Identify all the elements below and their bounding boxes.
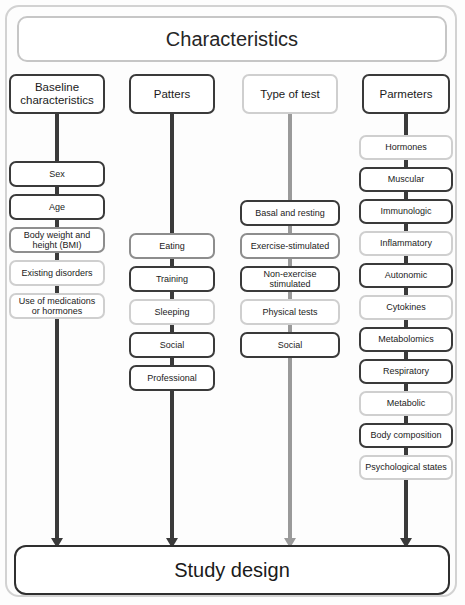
node-type-of-test-4: Social bbox=[240, 332, 340, 358]
column-header-type-of-test: Type of test bbox=[242, 74, 338, 114]
node-baseline-1: Age bbox=[9, 194, 105, 220]
node-parameters-0-label: Hormones bbox=[382, 142, 430, 152]
column-header-baseline: Baseline characteristics bbox=[9, 74, 105, 114]
node-patterns-2: Sleeping bbox=[129, 299, 215, 325]
node-parameters-4: Autonomic bbox=[359, 263, 453, 288]
node-parameters-2-label: Immunologic bbox=[377, 206, 434, 216]
node-parameters-6-label: Metabolomics bbox=[375, 334, 437, 344]
node-patterns-0-label: Eating bbox=[156, 241, 188, 251]
node-parameters-4-label: Autonomic bbox=[382, 270, 431, 280]
column-header-patterns: Patters bbox=[129, 74, 215, 114]
connector-line bbox=[170, 114, 174, 538]
node-baseline-4: Use of medications or hormones bbox=[9, 293, 105, 319]
node-patterns-1-label: Training bbox=[153, 274, 191, 284]
node-baseline-2-label: Body weight and height (BMI) bbox=[11, 230, 103, 250]
study-design-box: Study design bbox=[14, 545, 450, 595]
node-patterns-3: Social bbox=[129, 332, 215, 358]
study-design-label: Study design bbox=[174, 559, 290, 582]
node-parameters-7-label: Respiratory bbox=[380, 366, 432, 376]
connector-line bbox=[288, 114, 292, 538]
node-parameters-1-label: Muscular bbox=[385, 174, 428, 184]
diagram-title-box: Characteristics bbox=[17, 16, 447, 62]
node-baseline-1-label: Age bbox=[46, 202, 68, 212]
node-parameters-5-label: Cytokines bbox=[383, 302, 429, 312]
node-parameters-2: Immunologic bbox=[359, 199, 453, 224]
diagram-title-label: Characteristics bbox=[166, 28, 298, 51]
node-type-of-test-0-label: Basal and resting bbox=[252, 208, 328, 218]
diagram-canvas: Characteristics Baseline characteristics… bbox=[0, 0, 465, 605]
node-baseline-0-label: Sex bbox=[46, 169, 68, 179]
node-baseline-3: Existing disorders bbox=[9, 260, 105, 286]
node-type-of-test-3-label: Physical tests bbox=[259, 307, 320, 317]
node-parameters-3-label: Inflammatory bbox=[377, 238, 435, 248]
node-type-of-test-1-label: Exercise-stimulated bbox=[248, 241, 333, 251]
node-parameters-9: Body composition bbox=[359, 423, 453, 448]
node-parameters-8-label: Metabolic bbox=[384, 398, 429, 408]
node-parameters-5: Cytokines bbox=[359, 295, 453, 320]
node-parameters-1: Muscular bbox=[359, 167, 453, 192]
node-baseline-0: Sex bbox=[9, 161, 105, 187]
node-type-of-test-3: Physical tests bbox=[240, 299, 340, 325]
node-type-of-test-0: Basal and resting bbox=[240, 200, 340, 226]
node-type-of-test-2: Non-exercise stimulated bbox=[240, 266, 340, 292]
node-parameters-0: Hormones bbox=[359, 135, 453, 160]
node-parameters-9-label: Body composition bbox=[367, 430, 444, 440]
node-parameters-8: Metabolic bbox=[359, 391, 453, 416]
node-parameters-10: Psychological states bbox=[359, 455, 453, 480]
node-baseline-3-label: Existing disorders bbox=[18, 268, 95, 278]
node-parameters-6: Metabolomics bbox=[359, 327, 453, 352]
node-parameters-10-label: Psychological states bbox=[362, 462, 450, 472]
node-baseline-4-label: Use of medications or hormones bbox=[11, 296, 103, 316]
column-header-parameters-label: Parmeters bbox=[376, 88, 435, 101]
node-patterns-2-label: Sleeping bbox=[151, 307, 192, 317]
node-type-of-test-2-label: Non-exercise stimulated bbox=[242, 269, 338, 289]
node-parameters-3: Inflammatory bbox=[359, 231, 453, 256]
node-parameters-7: Respiratory bbox=[359, 359, 453, 384]
node-patterns-4: Professional bbox=[129, 365, 215, 391]
node-patterns-1: Training bbox=[129, 266, 215, 292]
column-header-parameters: Parmeters bbox=[362, 74, 450, 114]
column-header-patterns-label: Patters bbox=[151, 88, 193, 101]
node-patterns-3-label: Social bbox=[157, 340, 188, 350]
node-patterns-0: Eating bbox=[129, 233, 215, 259]
node-type-of-test-4-label: Social bbox=[275, 340, 306, 350]
node-type-of-test-1: Exercise-stimulated bbox=[240, 233, 340, 259]
node-baseline-2: Body weight and height (BMI) bbox=[9, 227, 105, 253]
column-header-baseline-label: Baseline characteristics bbox=[11, 81, 103, 107]
column-header-type-of-test-label: Type of test bbox=[257, 88, 322, 101]
node-patterns-4-label: Professional bbox=[144, 373, 200, 383]
